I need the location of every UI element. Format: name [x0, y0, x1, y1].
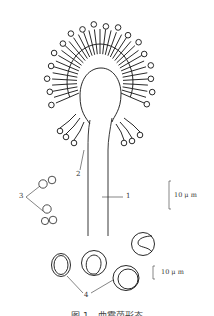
cleistothecium-inner [86, 255, 101, 274]
metula-wall [121, 93, 130, 97]
conidium [41, 217, 48, 224]
metula-wall [68, 75, 78, 77]
conidium-tip [44, 76, 50, 82]
phialide-wall [132, 93, 146, 97]
label-2: 2 [76, 171, 80, 178]
metula-wall [121, 67, 130, 71]
metula-tip [68, 93, 69, 97]
metula-wall [67, 84, 77, 85]
cleistothecium [82, 251, 107, 276]
scale-bar-1 [169, 181, 171, 209]
conidium-tip [129, 138, 135, 144]
phialide-wall [108, 30, 112, 45]
vesicle [80, 68, 121, 124]
metula-tip [68, 89, 69, 93]
conidium-tip [136, 39, 142, 45]
phialide-wall [133, 84, 148, 85]
phialide-wall [54, 93, 68, 97]
leader-line-3a [26, 186, 40, 197]
metula-wall [67, 80, 77, 81]
metula-tip [121, 53, 124, 56]
phialide-wall [130, 97, 144, 103]
phialide-wall [120, 122, 132, 138]
phialide-wall [56, 61, 70, 67]
conidium-tip [149, 89, 155, 95]
metula-tip [129, 63, 131, 67]
conidium-tip [137, 132, 143, 138]
conidial-head [44, 22, 155, 146]
metula-tip [76, 53, 79, 56]
conidium-tip [60, 41, 66, 47]
metula-tip [85, 46, 89, 48]
metula-tip [130, 93, 131, 97]
phialide-wall [94, 29, 96, 44]
conidium-tip [48, 63, 54, 69]
metula-tip [124, 56, 127, 59]
scale-bars [153, 181, 171, 279]
conidium-tip [49, 102, 55, 108]
metula-wall [96, 44, 97, 54]
phialide-wall [132, 67, 146, 71]
conidium [43, 205, 51, 213]
leader-line-3b [26, 197, 43, 211]
metula-tip [111, 46, 115, 48]
conidium-tip [57, 128, 63, 134]
metula-tip [68, 71, 69, 75]
label-3: 3 [19, 193, 23, 200]
scale-bar-1-label: 10 μ m [174, 192, 197, 199]
conidium-tip [148, 63, 154, 69]
metula-tip [79, 50, 82, 53]
phialide-wall [52, 84, 67, 85]
metula-tip [74, 56, 77, 59]
label-4: 4 [84, 292, 88, 299]
conidiophore-stalk [88, 118, 112, 236]
metula-tip [115, 48, 118, 50]
conidium-tip [115, 25, 121, 31]
cleistothecium-inner [118, 269, 138, 289]
phialide-wall [52, 79, 67, 80]
conidium-tip [144, 101, 150, 107]
metula-wall [70, 67, 79, 71]
metula-wall [122, 90, 132, 93]
metula-tip [89, 45, 93, 46]
conidium-tip [121, 140, 127, 146]
metula-tip [108, 45, 112, 46]
scale-bar-2 [153, 266, 155, 279]
cleistothecia-group [52, 233, 155, 291]
metula-wall [68, 71, 78, 74]
phialide-wall [53, 73, 68, 76]
phialide-wall [130, 61, 144, 67]
phialide-wall [133, 89, 148, 92]
phialide-wall [133, 79, 148, 80]
metula-wall [122, 71, 132, 74]
stalk-left-edge [88, 120, 90, 236]
conidium-tip [91, 22, 97, 28]
phialide-wall [66, 118, 80, 134]
metula-tip [104, 44, 108, 45]
conidium-tip [47, 89, 53, 95]
metula-wall [123, 87, 133, 89]
metula-tip [118, 50, 121, 53]
phialide-wall [53, 89, 68, 92]
metula-wall [123, 80, 133, 81]
figure-caption: 图 1 曲霉菌形态 [0, 309, 214, 316]
scale-bar-2-label: 10 μ m [161, 269, 184, 276]
phialide-wall [133, 73, 148, 76]
metula-tip [130, 67, 131, 71]
metula-tip [71, 59, 73, 63]
cleistothecium-inner [54, 256, 68, 275]
metula-wall [105, 45, 107, 55]
metula-tip [132, 89, 133, 93]
conidium [49, 216, 57, 224]
leader-line-4b [91, 280, 113, 293]
metula-wall [92, 45, 94, 55]
conidium-tip [63, 134, 69, 140]
phialide-wall [54, 67, 68, 71]
phialide-wall [116, 124, 124, 140]
phialide-wall [56, 97, 70, 103]
conidium-tip [141, 51, 147, 57]
label-1: 1 [126, 193, 130, 200]
conidium-tip [68, 31, 74, 37]
metula-wall [89, 46, 92, 55]
metula-wall [123, 75, 133, 77]
